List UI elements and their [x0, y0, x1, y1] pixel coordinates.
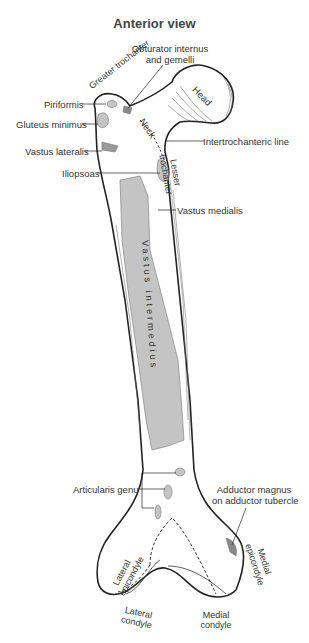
label-vastus-medialis: Vastus medialis	[177, 205, 243, 216]
label-intertrochanteric-line: Intertrochanteric line	[203, 136, 289, 147]
label-adductor-magnus: Adductor magnus on adductor tubercle	[212, 484, 296, 506]
gluteus-minimus-attachment	[97, 113, 108, 128]
label-iliopsoas: Iliopsoas	[62, 168, 100, 179]
label-articularis-genu: Articularis genu	[73, 484, 138, 495]
articularis-genu-patch-1	[175, 468, 185, 476]
label-vastus-lateralis: Vastus lateralis	[25, 146, 89, 157]
piriformis-attachment	[107, 101, 117, 108]
label-medial-condyle: Medial condyle	[198, 610, 234, 630]
label-piriformis: Piriformis	[44, 99, 84, 110]
articularis-genu-patch-2	[164, 485, 172, 499]
label-gluteus-minimus: Gluteus minimus	[16, 119, 87, 130]
articularis-genu-patch-3	[155, 505, 161, 519]
